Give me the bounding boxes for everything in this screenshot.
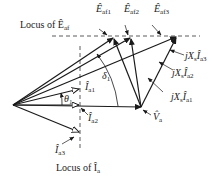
leader-ia2 xyxy=(81,108,88,115)
locus-ef-label: Locus of Êaf xyxy=(20,20,69,32)
jxs-ia2-phasor xyxy=(131,39,141,107)
ia2-label: Îa2 xyxy=(88,113,98,125)
jxs-ia2-label: jXsÎa2 xyxy=(172,68,194,80)
leader-ia3 xyxy=(62,137,74,144)
ia1-label: Îa1 xyxy=(85,82,95,94)
locus-ia-label: Locus of Îa xyxy=(56,163,100,175)
ef1-label: Êaf1 xyxy=(96,4,111,16)
theta-label: θ1 xyxy=(64,94,72,106)
ef3-phasor xyxy=(13,37,176,105)
jxs-ia1-label: jXsÎa1 xyxy=(171,92,193,104)
leader-jx3 xyxy=(170,50,184,55)
jxs-ia1-phasor xyxy=(114,39,141,107)
ef2-label: Êaf2 xyxy=(124,4,139,16)
leader-jx2 xyxy=(159,62,173,70)
leader-ef2 xyxy=(125,25,128,35)
leader-ef3 xyxy=(152,25,161,35)
leader-ef-locus xyxy=(99,29,107,35)
ia3-phasor xyxy=(13,105,79,132)
theta-arc xyxy=(61,93,62,105)
ef3-label: Êaf3 xyxy=(154,4,169,16)
leader-va xyxy=(143,110,151,115)
jxs-ia3-label: jXsÎa3 xyxy=(185,51,207,63)
ia3-label: Îa3 xyxy=(55,145,65,157)
delta-label: δ1 xyxy=(102,71,110,83)
ef1-phasor xyxy=(13,38,113,105)
va-label: V̂a xyxy=(153,112,162,124)
